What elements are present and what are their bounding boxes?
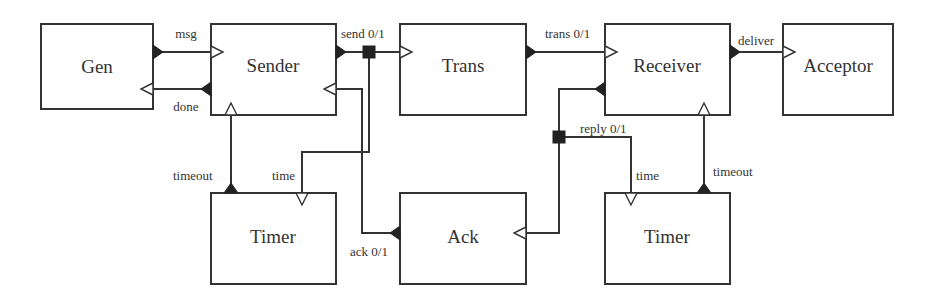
component-timer-right[interactable]: Timer (605, 193, 730, 284)
component-label: Sender (247, 55, 300, 76)
junction-send (363, 46, 375, 58)
component-label: Timer (250, 226, 296, 247)
wire-label-done: done (173, 99, 199, 114)
component-label: Timer (644, 226, 690, 247)
wire-label-time-left: time (272, 168, 295, 183)
junction-reply (553, 131, 565, 143)
component-sender[interactable]: Sender (211, 24, 336, 115)
wire-time-right (559, 137, 631, 193)
wire-ack (336, 89, 393, 233)
component-acceptor[interactable]: Acceptor (783, 24, 893, 115)
wire-label-deliver: deliver (738, 33, 775, 48)
component-timer-left[interactable]: Timer (211, 193, 336, 284)
component-label: Ack (447, 226, 479, 247)
output-port-icon (390, 226, 400, 240)
wire-label-msg: msg (175, 26, 197, 41)
wire-label-timeout-right: timeout (713, 164, 753, 179)
output-port-icon (201, 82, 211, 96)
protocol-diagram: Gen Sender Trans Receiver Acceptor Timer… (0, 0, 935, 305)
wire-label-send: send 0/1 (341, 26, 385, 41)
component-gen[interactable]: Gen (41, 24, 153, 109)
wire-label-time-right: time (636, 168, 659, 183)
component-label: Receiver (633, 55, 701, 76)
component-label: Acceptor (803, 55, 873, 76)
component-label: Gen (81, 56, 113, 77)
output-port-icon (336, 45, 346, 59)
wire-label-reply: reply 0/1 (580, 121, 627, 136)
component-receiver[interactable]: Receiver (605, 24, 730, 115)
output-port-icon (595, 82, 605, 96)
output-port-icon (526, 45, 536, 59)
output-port-icon (153, 45, 163, 59)
output-port-icon (697, 183, 711, 193)
wire-label-timeout-left: timeout (173, 168, 213, 183)
wire-reply (526, 89, 598, 233)
component-trans[interactable]: Trans (400, 24, 526, 115)
wire-label-ack: ack 0/1 (350, 244, 388, 259)
wire-label-trans: trans 0/1 (545, 26, 590, 41)
component-ack[interactable]: Ack (400, 193, 526, 284)
output-port-icon (224, 183, 238, 193)
component-label: Trans (442, 55, 485, 76)
